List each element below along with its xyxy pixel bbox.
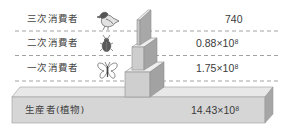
level-value-primary: 1.75×10⁸ — [196, 62, 239, 74]
pyramid-diagram: 三次消費者 二次消費者 一次消費者 生産者(植物) 740 0.88×10⁸ 1… — [0, 0, 287, 132]
level-value-tertiary: 740 — [225, 13, 243, 25]
level-label-secondary: 二次消費者 — [27, 37, 79, 49]
butterfly-icon — [98, 62, 117, 78]
tertiary-block-front — [137, 20, 140, 45]
primary-block-front — [125, 72, 150, 97]
level-value-secondary: 0.88×10⁸ — [196, 37, 239, 49]
producer-value: 14.43×10⁸ — [191, 104, 240, 116]
secondary-block-front — [132, 47, 144, 70]
level-label-primary: 一次消費者 — [27, 62, 79, 74]
bird-icon — [97, 12, 119, 30]
producer-label: 生産者(植物) — [25, 104, 85, 116]
beetle-icon — [100, 35, 113, 52]
level-label-tertiary: 三次消費者 — [27, 13, 79, 25]
